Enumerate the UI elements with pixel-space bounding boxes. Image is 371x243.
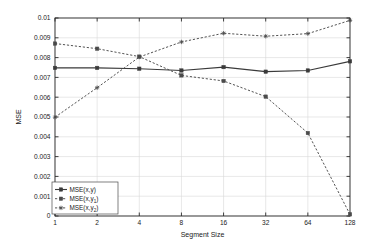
x-tick-label-5: 32 <box>262 219 270 226</box>
y-tick-label-2: 0.002 <box>34 173 51 180</box>
y-tick-label-9: 0.009 <box>34 34 51 41</box>
x-tick-label-1: 2 <box>95 219 99 226</box>
y-axis-label: MSE <box>15 109 22 125</box>
legend-label-0: MSE(x,y) <box>70 186 96 194</box>
y-tick-label-7: 0.007 <box>34 74 51 81</box>
chart-figure: 00.0010.0020.0030.0040.0050.0060.0070.00… <box>0 0 371 243</box>
y-tick-label-3: 0.003 <box>34 153 51 160</box>
x-tick-label-3: 8 <box>180 219 184 226</box>
x-tick-label-7: 128 <box>344 219 355 226</box>
x-tick-label-4: 16 <box>220 219 228 226</box>
y-tick-label-4: 0.004 <box>34 133 51 140</box>
x-tick-label-6: 64 <box>304 219 312 226</box>
y-tick-label-10: 0.01 <box>38 14 51 21</box>
y-tick-label-8: 0.008 <box>34 54 51 61</box>
x-tick-label-2: 4 <box>137 219 141 226</box>
y-tick-label-6: 0.006 <box>34 94 51 101</box>
chart-canvas: 00.0010.0020.0030.0040.0050.0060.0070.00… <box>0 0 371 243</box>
y-tick-label-5: 0.005 <box>34 113 51 120</box>
x-axis-label: Segment Size <box>181 231 225 239</box>
y-tick-label-1: 0.001 <box>34 193 51 200</box>
y-tick-label-0: 0 <box>47 212 51 219</box>
x-tick-label-0: 1 <box>53 219 57 226</box>
chart-legend: MSE(x,y)MSE(x,y1)MSE(x,y2) <box>52 182 118 214</box>
